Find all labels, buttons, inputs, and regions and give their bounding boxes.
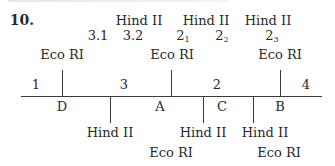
segment-number-3: 3 [120,78,128,91]
segment-number-1: 1 [32,78,40,91]
fragment-label-3-1: 3.1 [88,29,109,42]
hind-label-bottom-1: Hind II [87,126,134,139]
eco-label-bottom-2: Eco RI [257,146,301,159]
hind-label-top-2: Hind II [183,14,230,27]
fragment-label-3-2: 3.2 [123,29,144,42]
cropped-previous-text [8,0,228,2]
hind-cut-tick-1 [110,96,111,123]
fragment-label-2-3-sub: 3 [274,35,279,44]
segment-number-4: 4 [302,78,310,91]
fragment-label-2-1: 21 [176,29,189,46]
hind-cut-tick-3 [253,96,254,123]
hind-label-bottom-3: Hind II [242,126,289,139]
fragment-label-2-3: 23 [265,29,278,46]
eco-label-top-1: Eco RI [40,48,84,61]
eco-cut-tick-2 [171,70,172,97]
eco-cut-tick-3 [280,70,281,97]
fragment-letter-d: D [57,100,67,113]
fragment-label-2-2: 22 [215,29,228,46]
fragment-letter-c: C [217,100,227,113]
segment-number-2: 2 [213,78,221,91]
eco-label-bottom-1: Eco RI [149,146,193,159]
eco-label-top-3: Eco RI [258,48,302,61]
eco-label-top-2: Eco RI [150,48,194,61]
question-number: 10. [10,14,34,27]
hind-label-top-3: Hind II [245,14,292,27]
fragment-letter-b: B [275,100,285,113]
hind-label-bottom-2: Hind II [180,126,227,139]
fragment-letter-a: A [155,100,164,113]
fragment-label-2-1-sub: 1 [185,35,190,44]
hind-label-top-1: Hind II [116,14,163,27]
hind-cut-tick-2 [203,96,204,123]
eco-cut-tick-1 [62,70,63,97]
fragment-label-2-2-sub: 2 [224,35,229,44]
